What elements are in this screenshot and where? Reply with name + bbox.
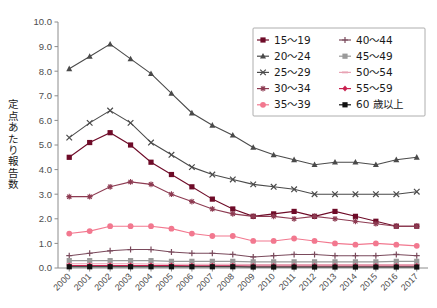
data-point: [87, 264, 92, 269]
x-tick-label: 2005: [154, 271, 175, 292]
data-point: [148, 181, 154, 187]
x-tick-label: 2013: [317, 271, 338, 292]
x-tick-label: 2015: [358, 271, 379, 292]
data-point: [67, 264, 72, 269]
legend-label: 45～49: [356, 50, 393, 62]
legend-label: 25～29: [274, 66, 311, 78]
data-point: [230, 233, 236, 239]
data-point: [148, 140, 154, 146]
series-25-29: [66, 108, 419, 197]
data-point: [414, 223, 420, 229]
legend: 15～1920～2425～2930～3435～3940～4445～4950～54…: [253, 28, 425, 116]
data-point: [332, 253, 338, 259]
data-point: [67, 258, 72, 263]
data-point: [169, 264, 174, 269]
data-point: [230, 206, 235, 211]
data-point: [332, 209, 337, 214]
data-point: [353, 242, 359, 248]
data-point: [87, 258, 92, 263]
data-point: [66, 66, 72, 72]
x-tick-label: 2017: [399, 271, 420, 292]
data-point: [87, 194, 93, 200]
x-tick-label: 2007: [195, 271, 216, 292]
data-point: [66, 231, 72, 237]
legend-label: 30～34: [274, 82, 311, 94]
data-point: [250, 238, 256, 244]
series-line: [69, 250, 417, 257]
data-point: [291, 216, 297, 222]
data-point: [128, 223, 134, 229]
data-point: [107, 223, 113, 229]
y-axis-title-char: 告: [8, 167, 18, 179]
y-tick-label: 2.0: [39, 213, 52, 224]
data-point: [292, 264, 297, 269]
data-point: [332, 216, 338, 222]
data-point: [291, 236, 297, 242]
data-point: [251, 264, 256, 269]
legend-label: 50～54: [356, 66, 393, 78]
x-tick-label: 2009: [235, 271, 256, 292]
data-point: [148, 223, 154, 229]
data-point: [312, 238, 318, 244]
x-tick-label: 2002: [92, 271, 113, 292]
data-point: [128, 258, 133, 263]
legend-label: 60 歳以上: [356, 98, 403, 110]
data-point: [169, 191, 175, 197]
data-point: [312, 251, 318, 257]
data-point: [230, 251, 236, 257]
data-point: [230, 264, 235, 269]
y-axis-title-char: り: [8, 144, 18, 156]
data-point: [393, 242, 399, 248]
data-point: [414, 264, 419, 269]
data-point: [342, 72, 348, 74]
y-axis-title-char: 点: [8, 110, 18, 122]
data-point: [414, 253, 420, 259]
data-point: [87, 140, 92, 145]
data-point: [260, 37, 265, 42]
data-point: [271, 253, 277, 259]
data-point: [332, 241, 338, 247]
data-point: [250, 254, 256, 260]
data-point: [148, 247, 154, 253]
data-point: [148, 264, 153, 269]
data-point: [169, 152, 175, 158]
data-point: [332, 264, 337, 269]
data-point: [393, 251, 399, 257]
data-point: [312, 213, 318, 219]
y-axis-ticks: 0.01.02.03.04.05.06.07.08.09.010.0: [34, 16, 59, 273]
data-point: [189, 199, 195, 205]
y-tick-label: 8.0: [39, 66, 52, 77]
y-axis-title-char: 数: [8, 178, 19, 190]
data-point: [393, 223, 399, 229]
data-point: [292, 209, 297, 214]
series-line: [69, 182, 417, 226]
y-tick-label: 5.0: [39, 139, 52, 150]
x-tick-label: 2012: [297, 271, 318, 292]
data-point: [108, 258, 113, 263]
data-point: [353, 214, 358, 219]
data-point: [189, 164, 195, 170]
data-point: [209, 122, 215, 128]
series-line: [69, 261, 417, 262]
data-point: [250, 144, 256, 150]
data-point: [128, 247, 134, 253]
series-40-44: [66, 247, 420, 260]
data-point: [342, 54, 347, 59]
data-point: [373, 264, 378, 269]
series-line: [69, 226, 417, 246]
data-point: [230, 132, 236, 138]
data-point: [128, 56, 134, 62]
data-point: [210, 197, 215, 202]
data-point: [107, 41, 113, 47]
data-point: [169, 172, 174, 177]
y-tick-label: 1.0: [39, 238, 52, 249]
data-point: [108, 264, 113, 269]
data-point: [312, 264, 317, 269]
data-point: [148, 160, 153, 165]
data-point: [189, 184, 194, 189]
data-point: [352, 253, 358, 259]
data-point: [66, 194, 72, 200]
data-point: [271, 264, 276, 269]
data-point: [353, 264, 358, 269]
data-point: [260, 86, 266, 92]
